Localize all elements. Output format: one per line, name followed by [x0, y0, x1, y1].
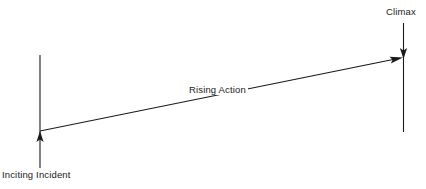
inciting-incident-label: Inciting Incident: [2, 169, 71, 180]
climax-label: Climax: [386, 6, 416, 17]
story-arc-diagram: Climax Rising Action Inciting Incident: [0, 0, 426, 189]
rising-action-label: Rising Action: [187, 84, 248, 95]
